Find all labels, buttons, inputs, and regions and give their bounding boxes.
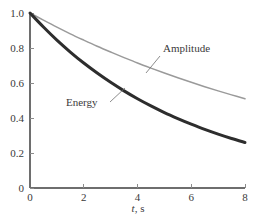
amplitude-energy-decay-figure: 00.20.40.60.81.0 02468 Amplitude Energy … xyxy=(0,0,254,218)
y-tick-label-1: 0.2 xyxy=(10,147,24,159)
y-tick-label-5: 1.0 xyxy=(10,7,24,19)
series-label-amplitude: Amplitude xyxy=(163,42,210,54)
y-tick-label-2: 0.4 xyxy=(10,112,24,124)
chart-background xyxy=(0,0,254,218)
y-tick-label-0: 0 xyxy=(19,182,25,194)
x-axis-title: t, s xyxy=(132,202,145,214)
y-tick-label-4: 0.8 xyxy=(10,42,24,54)
series-label-energy: Energy xyxy=(66,96,98,108)
x-tick-label-4: 8 xyxy=(242,191,248,203)
chart-canvas: 00.20.40.60.81.0 02468 Amplitude Energy … xyxy=(0,0,254,218)
x-tick-label-1: 2 xyxy=(81,191,87,203)
x-axis-title-unit: , s xyxy=(135,202,145,214)
x-tick-label-3: 6 xyxy=(189,191,195,203)
y-tick-label-3: 0.6 xyxy=(10,77,24,89)
x-tick-label-0: 0 xyxy=(27,191,33,203)
